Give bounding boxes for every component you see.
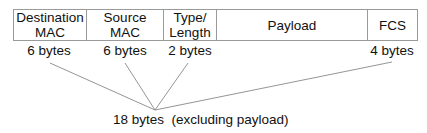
connector-destination	[50, 63, 155, 110]
connector-type	[155, 63, 188, 110]
connector-fcs	[155, 62, 392, 110]
total-overhead-label: 18 bytes (excluding payload)	[113, 112, 289, 127]
